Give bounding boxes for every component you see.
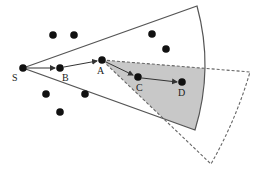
node-other bbox=[162, 45, 170, 53]
node-other bbox=[56, 108, 64, 116]
node-other bbox=[148, 30, 156, 38]
node-other bbox=[49, 31, 57, 39]
node-c bbox=[134, 73, 142, 81]
node-other bbox=[70, 31, 78, 39]
label-s: S bbox=[12, 72, 18, 83]
node-s bbox=[19, 64, 27, 72]
diagram-canvas: S B A C D bbox=[0, 0, 260, 176]
node-other bbox=[42, 90, 50, 98]
label-d: D bbox=[178, 87, 185, 98]
node-a bbox=[98, 56, 106, 64]
arrow-b-a bbox=[64, 61, 97, 67]
label-a: A bbox=[97, 65, 105, 76]
label-b: B bbox=[62, 72, 69, 83]
node-d bbox=[178, 78, 186, 86]
node-other bbox=[81, 90, 89, 98]
label-c: C bbox=[136, 82, 143, 93]
node-b bbox=[56, 64, 64, 72]
overlap-region bbox=[102, 60, 250, 164]
